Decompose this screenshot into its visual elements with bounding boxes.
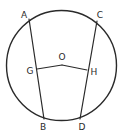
label-d: D [79,122,86,132]
circle-chord-diagram: A B C D G H O [0,0,125,138]
segment-go [37,65,62,69]
segment-oh [62,65,87,70]
label-g: G [27,66,34,76]
label-a: A [21,10,28,20]
label-o: O [58,52,65,62]
label-c: C [97,10,103,20]
label-h: H [91,67,98,77]
label-b: B [40,122,46,132]
